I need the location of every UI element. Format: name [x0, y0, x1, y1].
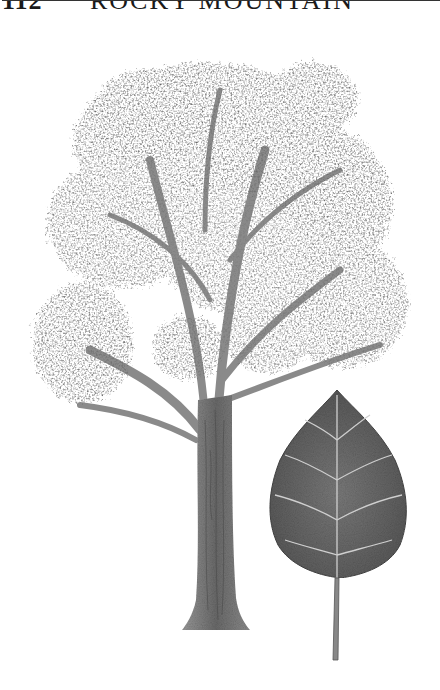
foliage: [30, 60, 405, 400]
running-header: 112 ROCKY MOUNTAIN: [0, 0, 440, 12]
tree-illustration: [0, 20, 440, 690]
leaf-detail: [270, 390, 406, 660]
header-rule: [2, 0, 440, 1]
page-number: 112: [2, 0, 43, 16]
leaf-stem: [333, 578, 339, 660]
running-title: ROCKY MOUNTAIN: [90, 0, 354, 16]
